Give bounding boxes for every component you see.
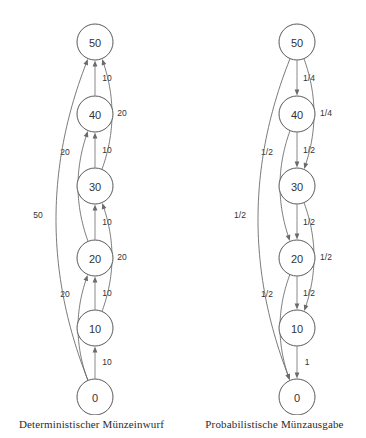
node-label: 0 bbox=[92, 392, 98, 404]
edge-arrowhead bbox=[295, 373, 300, 379]
node-label: 40 bbox=[291, 109, 303, 121]
panel-deterministic: 1010101010202020205050403020100 Determin… bbox=[0, 0, 183, 438]
graph-node[interactable]: 20 bbox=[279, 240, 315, 276]
edge-arrowhead bbox=[93, 346, 98, 352]
graph-node[interactable]: 30 bbox=[77, 168, 113, 204]
edge-arrowhead bbox=[83, 59, 87, 65]
caption-deterministic: Deterministischer Münzeinwurf bbox=[0, 418, 183, 430]
edge-arrowhead bbox=[285, 374, 289, 380]
edge-arrowhead bbox=[102, 203, 107, 209]
graph-node[interactable]: 10 bbox=[279, 310, 315, 346]
graph-node[interactable]: 50 bbox=[279, 24, 315, 60]
graph-node[interactable]: 10 bbox=[77, 310, 113, 346]
edge-label: 10 bbox=[102, 357, 112, 367]
graph-node[interactable]: 40 bbox=[279, 96, 315, 132]
edge-label: 20 bbox=[117, 108, 127, 118]
edge-arrowhead bbox=[93, 60, 98, 66]
node-label: 30 bbox=[291, 181, 303, 193]
edge-label: 1/4 bbox=[320, 108, 332, 118]
node-label: 10 bbox=[89, 323, 101, 335]
graph-probabilistic: 1/41/21/21/211/41/21/21/21/250403020100 bbox=[183, 0, 366, 415]
edge-arrowhead bbox=[93, 276, 98, 282]
edge-arrowhead bbox=[295, 304, 300, 310]
graph-node[interactable]: 0 bbox=[279, 379, 315, 415]
node-label: 0 bbox=[294, 392, 300, 404]
node-label: 50 bbox=[291, 37, 303, 49]
graph-node[interactable]: 20 bbox=[77, 240, 113, 276]
edge-label: 1/2 bbox=[320, 252, 332, 262]
edge-label: 1/2 bbox=[234, 210, 246, 220]
edge-arrowhead bbox=[295, 90, 300, 96]
edge-label: 1/2 bbox=[261, 289, 273, 299]
node-label: 20 bbox=[291, 253, 303, 265]
edge-arrowhead bbox=[83, 275, 88, 281]
node-label: 10 bbox=[291, 323, 303, 335]
caption-probabilistic: Probabilistische Münzausgabe bbox=[183, 418, 366, 430]
graph-node[interactable]: 30 bbox=[279, 168, 315, 204]
edge-arrowhead bbox=[93, 132, 98, 138]
edge-label: 20 bbox=[117, 252, 127, 262]
graph-deterministic: 1010101010202020205050403020100 bbox=[0, 0, 183, 415]
node-label: 40 bbox=[89, 109, 101, 121]
figure-container: 1010101010202020205050403020100 Determin… bbox=[0, 0, 366, 438]
edge-arrowhead bbox=[286, 235, 291, 241]
edge-arrowhead bbox=[295, 234, 300, 240]
node-label: 50 bbox=[89, 37, 101, 49]
panel-probabilistic: 1/41/21/21/211/41/21/21/21/250403020100 … bbox=[183, 0, 366, 438]
edge-arrowhead bbox=[84, 131, 89, 137]
graph-node[interactable]: 50 bbox=[77, 24, 113, 60]
node-label: 30 bbox=[89, 181, 101, 193]
node-label: 20 bbox=[89, 253, 101, 265]
graph-node[interactable]: 40 bbox=[77, 96, 113, 132]
edge-arrowhead bbox=[304, 163, 309, 169]
edge-arrowhead bbox=[93, 204, 98, 210]
edge-label: 1 bbox=[305, 357, 310, 367]
edge-arrowhead bbox=[304, 305, 309, 311]
edge-arrowhead bbox=[295, 162, 300, 168]
edge-label: 50 bbox=[33, 210, 43, 220]
graph-node[interactable]: 0 bbox=[77, 379, 113, 415]
edge-label: 20 bbox=[60, 289, 70, 299]
edge-arrowhead bbox=[102, 59, 107, 65]
